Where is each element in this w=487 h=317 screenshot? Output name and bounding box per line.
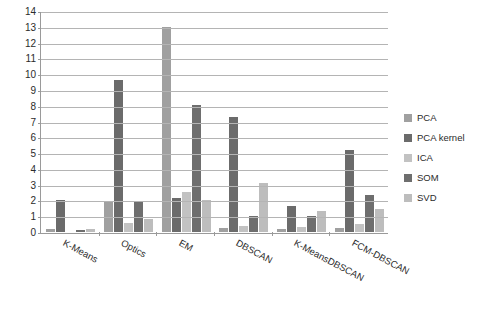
bar	[277, 229, 286, 232]
x-axis-label-cell: EM	[157, 236, 215, 306]
bar	[192, 105, 201, 232]
legend-item[interactable]: SOM	[404, 168, 484, 188]
y-axis-tick-mark	[38, 138, 41, 139]
gridline	[41, 170, 388, 171]
y-axis-tick-label: 2	[30, 196, 36, 206]
y-axis-tick-label: 4	[30, 165, 36, 175]
x-axis-labels: K-MeansOpticsEMDBSCANK-MeansDBSCANFCM-DB…	[41, 236, 388, 306]
gridline	[41, 75, 388, 76]
bar	[182, 192, 191, 232]
y-axis-tick-mark	[38, 186, 41, 187]
bar	[229, 117, 238, 232]
x-axis-label-cell: K-MeansDBSCAN	[272, 236, 330, 306]
gridline	[41, 28, 388, 29]
bar	[124, 223, 133, 232]
y-axis-tick-label: 5	[30, 149, 36, 159]
x-axis-tick-label: K-Means	[61, 238, 99, 264]
legend-label: ICA	[417, 153, 433, 163]
x-axis-label-cell: K-Means	[41, 236, 99, 306]
y-axis-tick-label: 6	[30, 133, 36, 143]
chart-legend: PCAPCA kernelICASOMSVD	[404, 108, 484, 208]
gridline	[41, 123, 388, 124]
y-axis-tick-mark	[38, 12, 41, 13]
y-axis-tick-mark	[38, 233, 41, 234]
plot-area: 01234567891011121314	[40, 12, 388, 234]
bar	[355, 224, 364, 232]
legend-item[interactable]: PCA kernel	[404, 128, 484, 148]
y-axis-tick-label: 14	[25, 7, 36, 17]
bar	[46, 229, 55, 232]
bar	[345, 150, 354, 232]
bar	[202, 200, 211, 232]
y-axis-tick-mark	[38, 28, 41, 29]
x-axis-label-cell: DBSCAN	[214, 236, 272, 306]
legend-swatch-icon	[404, 154, 412, 162]
gridline	[41, 201, 388, 202]
y-axis-tick-mark	[38, 44, 41, 45]
legend-swatch-icon	[404, 194, 412, 202]
bar	[86, 229, 95, 232]
x-axis-label-cell: FCM-DBSCAN	[330, 236, 388, 306]
legend-swatch-icon	[404, 114, 412, 122]
gridline	[41, 217, 388, 218]
bar	[297, 227, 306, 232]
gridline	[41, 138, 388, 139]
y-axis-tick-mark	[38, 59, 41, 60]
y-axis-tick-label: 0	[30, 228, 36, 238]
bar	[375, 209, 384, 232]
x-axis-label-cell: Optics	[99, 236, 157, 306]
x-axis-tick-label: FCM-DBSCAN	[351, 238, 411, 276]
y-axis-tick-mark	[38, 123, 41, 124]
legend-label: SOM	[417, 173, 439, 183]
y-axis-tick-label: 3	[30, 181, 36, 191]
y-axis-tick-label: 13	[25, 23, 36, 33]
bar	[259, 183, 268, 232]
bar	[114, 80, 123, 232]
y-axis-tick-mark	[38, 75, 41, 76]
y-axis-tick-label: 9	[30, 86, 36, 96]
y-axis-tick-label: 8	[30, 102, 36, 112]
legend-swatch-icon	[404, 174, 412, 182]
legend-label: PCA kernel	[417, 133, 465, 143]
bar	[239, 226, 248, 232]
bar	[219, 228, 228, 232]
bar	[317, 211, 326, 232]
gridline	[41, 107, 388, 108]
y-axis-tick-label: 10	[25, 70, 36, 80]
x-axis-tick-label: EM	[177, 238, 194, 253]
x-axis-tick-label: DBSCAN	[235, 238, 274, 265]
y-axis-tick-label: 7	[30, 118, 36, 128]
bar	[287, 206, 296, 232]
bar	[76, 230, 85, 232]
bar	[172, 198, 181, 232]
bar	[335, 228, 344, 232]
bar	[144, 219, 153, 232]
gridline	[41, 186, 388, 187]
legend-label: PCA	[417, 113, 437, 123]
legend-label: SVD	[417, 193, 437, 203]
y-axis-tick-mark	[38, 217, 41, 218]
legend-swatch-icon	[404, 134, 412, 142]
gridline	[41, 154, 388, 155]
bar	[56, 200, 65, 232]
bar	[307, 216, 316, 232]
y-axis-tick-label: 12	[25, 39, 36, 49]
y-axis-tick-mark	[38, 201, 41, 202]
y-axis-tick-mark	[38, 107, 41, 108]
bar-chart: 01234567891011121314 K-MeansOpticsEMDBSC…	[0, 0, 487, 317]
y-axis-tick-mark	[38, 154, 41, 155]
y-axis-tick-label: 11	[26, 54, 36, 64]
legend-item[interactable]: ICA	[404, 148, 484, 168]
gridline	[41, 44, 388, 45]
gridline	[41, 12, 388, 13]
y-axis-tick-mark	[38, 91, 41, 92]
y-axis-tick-mark	[38, 170, 41, 171]
bar	[249, 216, 258, 232]
y-axis-tick-label: 1	[30, 212, 36, 222]
gridline	[41, 91, 388, 92]
gridline	[41, 59, 388, 60]
x-axis-tick-label: Optics	[119, 238, 147, 259]
legend-item[interactable]: SVD	[404, 188, 484, 208]
legend-item[interactable]: PCA	[404, 108, 484, 128]
